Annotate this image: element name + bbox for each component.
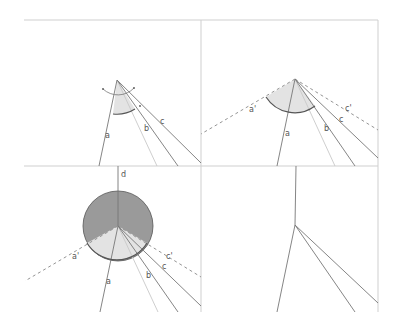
ray-faint — [117, 80, 157, 166]
label-a: a — [106, 277, 111, 286]
ray-a — [277, 225, 295, 312]
ray-c — [295, 79, 378, 158]
panel-top-left: a b c — [99, 80, 201, 166]
label-a: a — [285, 129, 290, 138]
label-b: b — [144, 124, 149, 133]
marker-point — [139, 105, 141, 107]
label-a-prime: a' — [249, 105, 256, 114]
arc-end-point — [102, 88, 104, 90]
label-c-prime: c' — [345, 104, 352, 113]
panel-bottom-right — [277, 166, 378, 312]
label-b: b — [324, 124, 329, 133]
label-d: d — [121, 170, 126, 179]
panel-top-right: a' a b c c' — [201, 79, 378, 166]
label-c-prime: c' — [166, 252, 173, 261]
ray-d — [295, 166, 296, 225]
diagram-svg: a b c a' a b c c' d a' a b c c' — [0, 0, 398, 326]
ray-c — [117, 80, 201, 163]
ray-b — [117, 80, 178, 166]
label-c: c — [339, 115, 343, 124]
label-c: c — [160, 117, 164, 126]
label-a-prime: a' — [72, 252, 79, 261]
ray-faint — [295, 79, 335, 166]
label-c: c — [162, 262, 166, 271]
ray-c — [118, 226, 201, 306]
ray-b — [295, 225, 355, 312]
figure-canvas: a b c a' a b c c' d a' a b c c' — [0, 0, 398, 326]
angle-sector — [266, 79, 315, 113]
panel-bottom-left: d a' a b c c' — [25, 166, 201, 312]
arc-end-point — [133, 87, 135, 89]
ray-c — [295, 225, 378, 303]
label-a: a — [105, 131, 110, 140]
ray-b — [295, 79, 355, 166]
label-b: b — [146, 271, 151, 280]
